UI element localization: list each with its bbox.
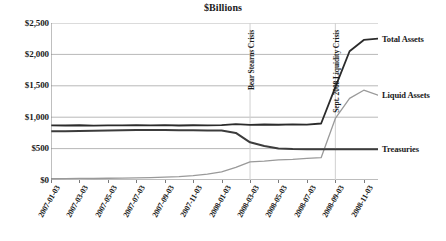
chart-annotation: Bear Stearns Crisis: [247, 30, 256, 90]
x-tick-label: 2007-07-03: [122, 184, 147, 219]
x-tick-mark: [335, 180, 336, 183]
x-tick-label: 2008-07-03: [292, 184, 317, 219]
x-tick-mark: [165, 180, 166, 183]
series-label-treasuries: Treasuries: [382, 144, 419, 154]
x-tick-mark: [307, 180, 308, 183]
series-label-total-assets: Total Assets: [382, 34, 424, 44]
x-tick-mark: [250, 180, 251, 183]
x-tick-label: 2008-11-03: [349, 184, 374, 219]
x-tick-label: 2007-11-03: [179, 184, 204, 219]
series-label-liquid-assets: Liquid Assets: [382, 90, 430, 100]
x-tick-label: 2007-03-03: [65, 184, 90, 219]
x-axis: 2007-01-032007-03-032007-05-032007-07-03…: [0, 0, 446, 241]
x-tick-mark: [136, 180, 137, 183]
x-tick-mark: [108, 180, 109, 183]
x-tick-label: 2008-09-03: [321, 184, 346, 219]
x-tick-mark: [51, 180, 52, 183]
x-tick-mark: [278, 180, 279, 183]
x-tick-label: 2007-05-03: [93, 184, 118, 219]
x-tick-mark: [79, 180, 80, 183]
chart-figure: $Billions $0$500$1,000$1,500$2,000$2,500…: [0, 0, 446, 241]
x-tick-mark: [222, 180, 223, 183]
x-tick-mark: [193, 180, 194, 183]
x-tick-label: 2007-01-03: [36, 184, 61, 219]
x-tick-label: 2007-09-03: [150, 184, 175, 219]
x-tick-label: 2008-01-03: [207, 184, 232, 219]
x-tick-mark: [364, 180, 365, 183]
chart-annotation: Sept. 2008 Liquidity Crisis: [332, 30, 341, 113]
x-tick-label: 2008-05-03: [264, 184, 289, 219]
x-tick-label: 2008-03-03: [235, 184, 260, 219]
